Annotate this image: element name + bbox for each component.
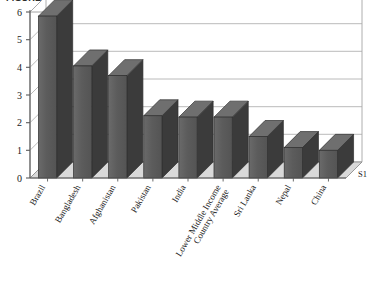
x-axis-label: Afghanistan — [87, 183, 118, 227]
x-axis-label: Nepal — [274, 183, 294, 207]
x-axis-label: Brazil — [28, 183, 48, 207]
y-tick-0: 0 — [17, 173, 22, 184]
y-tick-3: 3 — [17, 90, 22, 101]
y-tick-labels: 0 1 2 3 4 5 6 — [17, 7, 22, 184]
bar-chart-3d: 0 1 2 3 4 5 6 BrazilBangladeshAfghanista… — [0, 0, 380, 282]
figure-container: FIGURE 3.2 Average of ... — [0, 0, 380, 282]
bar-column — [109, 60, 143, 178]
y-tick-2: 2 — [17, 117, 22, 128]
x-axis-label: Sri Lanka — [232, 183, 258, 219]
x-axis-labels: BrazilBangladeshAfghanistanPakistanIndia… — [28, 183, 329, 263]
x-axis-label: Pakistan — [129, 183, 153, 215]
series-label-s1: S1 — [358, 169, 367, 179]
y-tick-6: 6 — [17, 7, 22, 18]
y-tick-5: 5 — [17, 34, 22, 45]
bar-column — [214, 101, 248, 178]
bar-column — [144, 100, 178, 178]
bar-column — [38, 0, 72, 178]
x-axis-label: India — [170, 183, 188, 204]
y-tick-1: 1 — [17, 145, 22, 156]
y-axis — [26, 10, 30, 178]
y-tick-4: 4 — [17, 62, 22, 73]
x-axis-label: China — [309, 183, 328, 207]
bar-column — [74, 50, 108, 178]
bar-column — [179, 101, 213, 178]
x-axis-label: Bangladesh — [53, 183, 83, 225]
